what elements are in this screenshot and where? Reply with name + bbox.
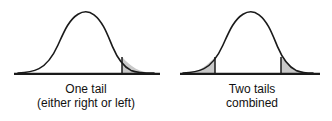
normal-distribution-curve: [183, 12, 313, 73]
two-tails-normal-curve-plot: [172, 0, 332, 82]
caption-two-tails-line2: combined: [172, 96, 332, 110]
panel-two-tails: Two tails combined: [172, 0, 332, 121]
caption-two-tails: Two tails combined: [172, 82, 332, 110]
caption-one-tail-line1: One tail: [0, 82, 172, 96]
caption-two-tails-line1: Two tails: [172, 82, 332, 96]
tail-regions-figure: One tail (either right or left) Two tail…: [0, 0, 332, 121]
one-tail-normal-curve-plot: [0, 0, 172, 82]
panel-one-tail: One tail (either right or left): [0, 0, 172, 121]
right-tail-shaded-region: [122, 57, 154, 73]
caption-one-tail: One tail (either right or left): [0, 82, 172, 110]
caption-one-tail-line2: (either right or left): [0, 96, 172, 110]
normal-distribution-curve: [18, 12, 154, 73]
